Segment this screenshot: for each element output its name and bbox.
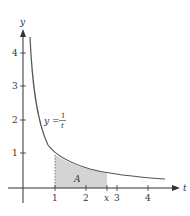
- region-label-A: A: [73, 174, 81, 184]
- t-axis-label: t: [183, 183, 187, 193]
- curve-y-equals-1-over-t: [30, 37, 165, 179]
- y-tick-3: 3: [12, 81, 18, 91]
- reciprocal-function-diagram: y t 4 3 2 1 1 2 x 3 4 A y = 1 t: [0, 0, 190, 216]
- svg-text:1: 1: [61, 112, 65, 120]
- y-tick-1: 1: [12, 148, 18, 158]
- x-marker-label: x: [104, 193, 109, 203]
- t-tick-1: 1: [52, 193, 58, 203]
- t-tick-4: 4: [145, 193, 151, 203]
- y-tick-4: 4: [12, 48, 18, 58]
- y-axis-label: y: [19, 17, 26, 27]
- t-axis-arrow-icon: [172, 185, 180, 191]
- y-axis-arrow-icon: [20, 29, 26, 37]
- svg-text:t: t: [61, 122, 64, 130]
- y-tick-2: 2: [12, 115, 18, 125]
- svg-text:y =: y =: [43, 116, 60, 126]
- t-tick-2: 2: [83, 193, 89, 203]
- curve-equation-label: y = 1 t: [43, 112, 66, 130]
- t-tick-3: 3: [114, 193, 120, 203]
